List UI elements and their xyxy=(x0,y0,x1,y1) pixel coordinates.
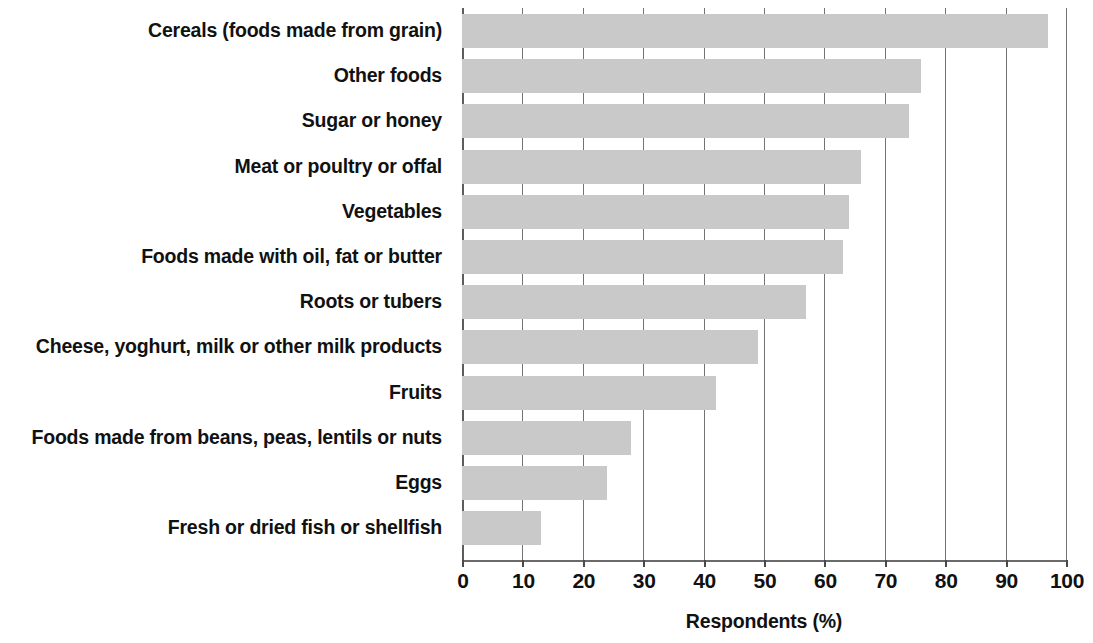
bar xyxy=(462,466,607,500)
x-tick-label: 70 xyxy=(856,569,916,593)
x-axis-title: Respondents (%) xyxy=(462,610,1066,633)
category-label: Cereals (foods made from grain) xyxy=(2,19,442,42)
category-label: Other foods xyxy=(2,64,442,87)
bar xyxy=(462,195,849,229)
bar xyxy=(462,14,1048,48)
bar xyxy=(462,59,921,93)
bar xyxy=(462,150,861,184)
bar xyxy=(462,511,541,545)
category-label: Vegetables xyxy=(2,200,442,223)
x-tick-label: 50 xyxy=(735,569,795,593)
category-label: Fresh or dried fish or shellfish xyxy=(2,516,442,539)
x-tick-mark xyxy=(643,560,645,567)
category-label: Foods made from beans, peas, lentils or … xyxy=(2,426,442,449)
x-tick-label: 30 xyxy=(614,569,674,593)
category-label: Eggs xyxy=(2,471,442,494)
x-tick-mark xyxy=(824,560,826,567)
gridline-80 xyxy=(945,8,946,560)
category-label: Cheese, yoghurt, milk or other milk prod… xyxy=(2,335,442,358)
x-tick-mark xyxy=(764,560,766,567)
x-tick-mark xyxy=(1006,560,1008,567)
plot-area xyxy=(462,8,1066,560)
x-tick-mark xyxy=(945,560,947,567)
x-tick-label: 40 xyxy=(675,569,735,593)
category-label: Foods made with oil, fat or butter xyxy=(2,245,442,268)
x-tick-mark xyxy=(704,560,706,567)
category-label: Roots or tubers xyxy=(2,290,442,313)
x-tick-mark xyxy=(522,560,524,567)
x-tick-mark xyxy=(885,560,887,567)
bar xyxy=(462,104,909,138)
x-tick-mark xyxy=(1066,560,1068,567)
x-tick-mark xyxy=(583,560,585,567)
bar xyxy=(462,285,806,319)
gridline-100 xyxy=(1066,8,1067,560)
category-label: Fruits xyxy=(2,381,442,404)
x-tick-label: 100 xyxy=(1037,569,1093,593)
x-tick-label: 60 xyxy=(795,569,855,593)
x-tick-label: 80 xyxy=(916,569,976,593)
x-tick-label: 90 xyxy=(977,569,1037,593)
gridline-90 xyxy=(1006,8,1007,560)
x-tick-label: 0 xyxy=(433,569,493,593)
category-axis-labels: Cereals (foods made from grain)Other foo… xyxy=(0,8,452,548)
bar xyxy=(462,376,716,410)
category-label: Meat or poultry or offal xyxy=(2,155,442,178)
bar-chart: Cereals (foods made from grain)Other foo… xyxy=(0,0,1093,643)
bar xyxy=(462,421,631,455)
category-label: Sugar or honey xyxy=(2,109,442,132)
bar xyxy=(462,240,843,274)
x-tick-mark xyxy=(462,560,464,567)
x-tick-label: 10 xyxy=(493,569,553,593)
bar xyxy=(462,330,758,364)
x-tick-label: 20 xyxy=(554,569,614,593)
